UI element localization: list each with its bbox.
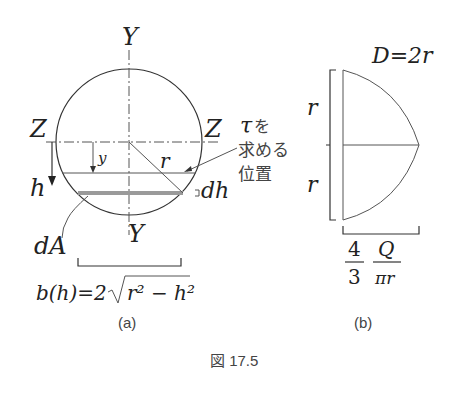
- height-bracket: [326, 70, 336, 220]
- label-r: r: [160, 149, 171, 173]
- label-Y-bottom: Y: [128, 220, 146, 248]
- label-tau-motomeru: 求める: [238, 140, 289, 160]
- panel-b: D=2r r r 4 3 Q πr (b): [307, 43, 434, 331]
- figure-caption: 図 17.5: [210, 352, 258, 369]
- area-strip-dA: [78, 191, 183, 195]
- dh-bracket: [195, 190, 199, 196]
- label-r-upper: r: [307, 95, 319, 120]
- tau-leader-arrow-head: [184, 166, 192, 172]
- panel-b-label: (b): [354, 314, 372, 331]
- frac1-denominator: 3: [348, 265, 361, 289]
- formula-lhs: b(h)=2: [36, 281, 107, 305]
- frac1-numerator: 4: [348, 237, 361, 261]
- panel-a: Y Y Z Z y h r dh dA τ を 求める 位置 b(h)=2 r²…: [29, 23, 289, 331]
- label-dA: dA: [34, 232, 67, 260]
- label-tau-ichi: 位置: [238, 164, 272, 184]
- formula-rhs: r² − h²: [127, 281, 195, 305]
- frac2-denominator: πr: [374, 268, 395, 288]
- label-Z-left: Z: [29, 115, 48, 143]
- tau-leader-line: [187, 148, 237, 171]
- figure-17-5: Y Y Z Z y h r dh dA τ を 求める 位置 b(h)=2 r²…: [0, 0, 456, 400]
- width-formula: b(h)=2 r² − h²: [36, 276, 195, 305]
- y-arrow-head: [90, 166, 96, 173]
- label-Y-top: Y: [122, 23, 140, 51]
- label-dh: dh: [201, 178, 229, 203]
- label-h: h: [30, 174, 45, 202]
- frac2-numerator: Q: [378, 237, 394, 261]
- panel-a-label: (a): [118, 314, 136, 331]
- width-bracket: [78, 258, 181, 266]
- label-y: y: [97, 149, 107, 167]
- label-Z-right: Z: [204, 115, 223, 143]
- radius-line: [129, 142, 183, 193]
- label-r-lower: r: [307, 172, 319, 197]
- label-tau-wo: を: [254, 117, 270, 136]
- label-diameter: D=2r: [371, 43, 434, 68]
- h-arrow-head: [48, 176, 56, 186]
- max-stress-bracket: [343, 226, 419, 234]
- label-tau: τ: [240, 113, 253, 138]
